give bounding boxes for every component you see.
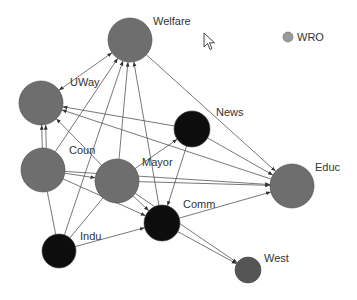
node-educ[interactable] [270,164,314,208]
edge-coun-mayor [65,173,95,178]
network-graph: WelfareUWayNewsCounMayorEducCommInduWest… [0,0,357,300]
edge-coun-uway [42,125,43,148]
edge-news-uway [63,107,175,126]
node-label-comm: Comm [183,198,215,210]
node-mayor[interactable] [95,159,139,203]
node-label-news: News [216,106,244,118]
edge-comm-west [178,232,237,264]
edge-indu-coun [47,192,55,235]
node-welfare[interactable] [108,18,152,62]
node-label-welfare: Welfare [153,15,191,27]
node-label-educ: Educ [315,161,341,173]
mouse-cursor-icon [203,32,217,52]
node-news[interactable] [174,111,210,147]
node-label-indu: Indu [80,230,101,242]
legend-wro-dot [283,32,293,42]
node-uway[interactable] [19,81,63,125]
node-label-coun: Coun [69,144,95,156]
edge-news-educ [208,138,273,175]
edge-welfare-educ [146,55,275,172]
legend: WRO [283,31,324,43]
edge-mayor-comm [133,196,149,211]
node-label-west: West [264,252,289,264]
edge-mayor-uway [56,119,101,165]
edge-coun-uway [46,125,47,148]
node-west[interactable] [235,257,261,283]
node-comm[interactable] [144,205,180,241]
edge-mayor-welfare [119,62,128,159]
node-label-uway: UWay [70,76,100,88]
node-indu[interactable] [42,234,76,268]
node-coun[interactable] [21,148,65,192]
legend-wro-label: WRO [297,31,324,43]
node-label-mayor: Mayor [142,156,173,168]
